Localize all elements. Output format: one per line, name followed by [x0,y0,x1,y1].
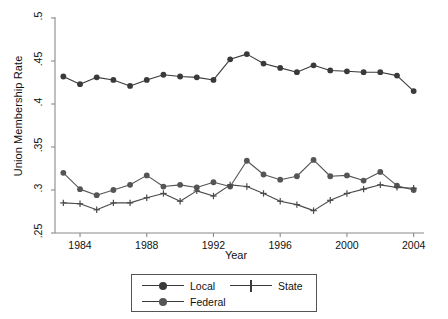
legend-item-federal: Federal [142,296,226,308]
y-tick-label: .25 [32,218,44,244]
marker-federal [277,177,283,183]
marker-local [144,77,150,83]
marker-state [377,182,383,188]
marker-state [127,200,133,206]
marker-local [294,69,300,75]
marker-federal [327,173,333,179]
marker-federal [344,172,350,178]
marker-local [377,69,383,75]
marker-state [244,183,250,189]
marker-local [227,56,233,62]
legend-label-federal: Federal [190,296,226,308]
marker-local [394,73,400,79]
legend-marker-local [142,280,184,292]
marker-local [60,74,66,80]
marker-local [77,81,83,87]
marker-federal [261,172,267,178]
marker-federal [244,158,250,164]
x-tick-label: 2004 [394,239,434,251]
marker-federal [311,157,317,163]
legend-marker-state [230,280,272,292]
marker-local [194,74,200,80]
marker-local [94,74,100,80]
x-axis-title: Year [206,249,266,261]
legend-label-state: State [278,280,303,292]
marker-state [294,201,300,207]
marker-state [110,200,116,206]
marker-state [360,186,366,192]
marker-state [77,201,83,207]
marker-local [311,62,317,68]
marker-state [327,197,333,203]
marker-state [310,207,316,213]
marker-state [60,200,66,206]
x-tick-label: 2000 [327,239,367,251]
marker-state [260,190,266,196]
marker-federal [94,192,100,198]
marker-state [94,207,100,213]
x-tick-label: 1996 [260,239,300,251]
marker-federal [77,186,83,192]
marker-state [210,193,216,199]
marker-state [344,190,350,196]
y-tick-label: .45 [32,46,44,72]
marker-federal [110,187,116,193]
y-tick-label: .5 [32,3,44,29]
marker-local [411,88,417,94]
marker-federal [211,179,217,185]
marker-state [160,190,166,196]
marker-local [361,69,367,75]
axis-ticks [51,18,414,237]
marker-local [244,51,250,57]
legend-item-local: Local [142,280,215,292]
marker-local [277,65,283,71]
x-tick-label: 1984 [60,239,100,251]
marker-federal [144,172,150,178]
x-tick-label: 1988 [127,239,167,251]
marker-state [277,198,283,204]
y-tick-label: .3 [32,175,44,201]
marker-local [110,77,116,83]
marker-federal [361,178,367,184]
chart-canvas [0,0,448,319]
axis-lines [55,17,424,233]
legend-item-state: State [230,280,303,292]
marker-federal [377,169,383,175]
legend-marker-federal [142,296,184,308]
marker-federal [294,173,300,179]
marker-state [177,198,183,204]
data-series-layer [60,51,417,214]
marker-local [344,68,350,74]
marker-local [161,72,167,78]
marker-local [177,74,183,80]
chart-figure: Union Membership Rate .25.3.35.4.45.5 19… [0,0,448,319]
marker-local [261,61,267,67]
marker-federal [177,182,183,188]
y-tick-label: .35 [32,132,44,158]
marker-federal [127,182,133,188]
marker-federal [161,184,167,190]
chart-legend: Local State Federal [131,274,317,312]
legend-label-local: Local [190,280,215,292]
marker-local [327,68,333,74]
marker-state [144,195,150,201]
marker-local [127,83,133,89]
marker-local [211,77,217,83]
marker-federal [60,170,66,176]
y-tick-label: .4 [32,89,44,115]
